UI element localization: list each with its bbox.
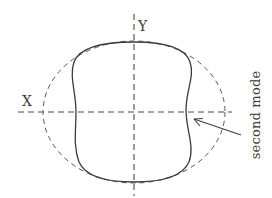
second-mode-annotation-label: second mode — [249, 71, 262, 160]
mode-shape-diagram — [0, 0, 272, 198]
annotation-arrow-shaft — [194, 119, 241, 135]
y-axis-label: Y — [138, 19, 147, 33]
x-axis-label: X — [22, 94, 32, 108]
